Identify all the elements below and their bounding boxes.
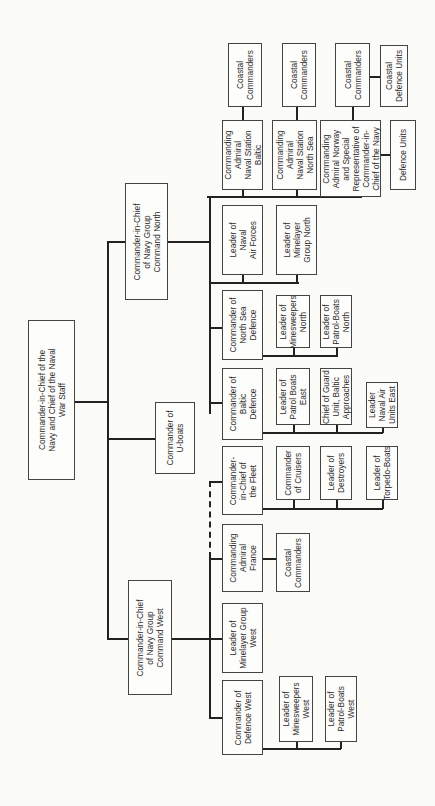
connector	[209, 717, 222, 719]
connector	[263, 748, 341, 750]
connector	[296, 275, 298, 283]
node-station-northsea: Commanding Admiral Naval Station North S…	[272, 120, 317, 190]
node-destroyers: Leader of Destroyers	[320, 446, 352, 500]
connector	[296, 742, 298, 749]
node-minesweepers-north: Leader of Minesweepers North	[276, 295, 310, 348]
connector	[296, 107, 298, 120]
node-torpedo: Leader of Torpedo-Boats	[366, 446, 398, 500]
node-coastal-northsea: Coastal Commanders	[282, 43, 316, 107]
node-minelayer-west: Leader of Minelayer Group West	[222, 603, 263, 673]
node-coastal-france: Coastal Commanders	[276, 533, 310, 592]
node-naval-air-east: Leader Naval Air Units East	[366, 382, 398, 428]
connector	[242, 107, 244, 120]
connector	[336, 348, 338, 356]
connector	[168, 241, 210, 243]
node-patrol-west: Leader of Patrol-Boats West	[325, 676, 357, 742]
dashed-connector	[209, 481, 211, 558]
connector	[242, 275, 244, 283]
connector	[209, 638, 222, 640]
connector	[336, 500, 338, 509]
node-baltic-defence: Commander of Baltic Defence	[222, 368, 263, 440]
connector	[263, 558, 276, 560]
node-cruisers: Commander of Cruisers	[276, 446, 310, 500]
connector	[340, 742, 342, 749]
connector	[209, 327, 222, 329]
node-root: Commander-in-Chief of the Navy and Chief…	[28, 320, 75, 480]
node-uboats: Commander of U-boats	[155, 402, 195, 474]
connector	[336, 425, 338, 433]
connector	[352, 107, 354, 120]
connector	[107, 241, 125, 243]
node-group-north: Commander-in-Chief of Navy Group Command…	[125, 183, 168, 300]
connector	[370, 76, 380, 78]
node-guard-baltic: Chief of Guard Unit, Baltic Approaches	[320, 368, 352, 425]
connector	[209, 481, 222, 483]
connector	[107, 241, 109, 639]
connector	[242, 190, 244, 197]
node-station-baltic: Commanding Admiral Naval Station Baltic	[222, 120, 263, 190]
connector	[209, 402, 222, 404]
connector	[209, 282, 299, 284]
connector	[293, 425, 295, 433]
connector	[75, 401, 108, 403]
node-naval-air: Leader of Naval Air Forces	[222, 205, 263, 275]
connector	[382, 428, 384, 433]
connector	[263, 508, 383, 510]
connector	[107, 438, 155, 440]
node-group-west: Commander-in-Chief of Navy Group Command…	[128, 580, 172, 695]
connector	[209, 196, 211, 414]
connector	[381, 154, 390, 156]
org-chart: Commander-in-Chief of the Navy and Chief…	[0, 0, 435, 806]
connector	[172, 638, 210, 640]
node-patrol-east: Leader of Patrol Boats East	[276, 368, 310, 425]
node-minelayer-north: Leader of Minelayer Group North	[276, 205, 317, 275]
connector	[296, 190, 298, 197]
node-defence-west: Commander of Defence West	[222, 680, 263, 755]
node-northsea-defence: Commander of North Sea Defence	[222, 290, 263, 360]
node-admiral-france: Commanding Admiral France	[222, 524, 263, 592]
node-coastal-baltic: Coastal Commanders	[228, 43, 262, 107]
node-coastal-norway: Coastal Commanders	[335, 43, 370, 107]
connector	[293, 348, 295, 356]
connector	[209, 558, 222, 560]
connector	[382, 500, 384, 509]
node-coastal-defence-units: Coastal Defence Units	[380, 45, 408, 107]
connector	[263, 355, 338, 357]
node-admiral-norway: Commanding Admiral Norway and Special Re…	[320, 120, 381, 197]
connector	[293, 500, 295, 509]
connector	[263, 432, 383, 434]
node-fleet: Commander- in-Chief of the Fleet	[222, 446, 263, 515]
node-minesweepers-west: Leader of Minesweepers West	[279, 676, 313, 742]
connector	[107, 638, 128, 640]
node-patrol-north: Leader of Patrol-Boats North	[320, 295, 352, 348]
node-defence-units: Defence Units	[390, 120, 416, 190]
